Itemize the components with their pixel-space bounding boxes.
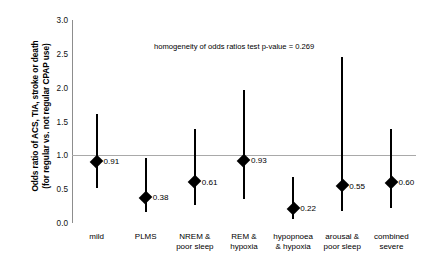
odds-ratio-value-label: 0.91 bbox=[104, 157, 120, 166]
data-point-group[interactable]: 0.61NREM &poor sleep bbox=[170, 20, 219, 223]
y-axis-title: Odds ratio of ACS, TIA, stroke or death … bbox=[0, 0, 34, 232]
y-tick-label: 0.5 bbox=[48, 185, 68, 194]
data-point-group[interactable]: 0.22hypopnoea& hypoxia bbox=[269, 20, 318, 223]
plot-area: 3.02.52.01.51.00.50.0 homogeneity of odd… bbox=[72, 20, 416, 223]
category-label-line1: PLMS bbox=[135, 232, 157, 242]
y-tick-label: 2.5 bbox=[48, 49, 68, 58]
y-axis-title-line1: Odds ratio of ACS, TIA, stroke or death bbox=[30, 40, 40, 191]
category-label-line1: arousal & bbox=[324, 232, 361, 242]
odds-ratio-value-label: 0.60 bbox=[398, 178, 414, 187]
odds-ratio-value-label: 0.38 bbox=[153, 193, 169, 202]
category-label-line2: & hypoxia bbox=[273, 242, 313, 252]
odds-ratio-marker bbox=[237, 153, 251, 167]
category-label: hypopnoea& hypoxia bbox=[273, 232, 313, 252]
confidence-interval-bar bbox=[243, 90, 245, 200]
odds-ratio-value-label: 0.93 bbox=[251, 156, 267, 165]
odds-ratio-value-label: 0.22 bbox=[300, 204, 316, 213]
category-label-line2: severe bbox=[374, 242, 409, 252]
category-label-line2: poor sleep bbox=[324, 242, 361, 252]
odds-ratio-value-label: 0.61 bbox=[202, 177, 218, 186]
category-label: PLMS bbox=[135, 232, 157, 242]
category-label-line1: REM & bbox=[230, 232, 258, 242]
category-label-line1: hypopnoea bbox=[273, 232, 313, 242]
data-point-group[interactable]: 0.55arousal &poor sleep bbox=[318, 20, 367, 223]
odds-ratio-value-label: 0.55 bbox=[349, 181, 365, 190]
y-tick-label: 1.0 bbox=[48, 151, 68, 160]
odds-ratio-marker bbox=[188, 175, 202, 189]
y-tick-label: 1.5 bbox=[48, 117, 68, 126]
category-label-line1: mild bbox=[89, 232, 104, 242]
category-label: REM &hypoxia bbox=[230, 232, 258, 252]
data-point-group[interactable]: 0.91mild bbox=[72, 20, 121, 223]
forest-plot-figure: Odds ratio of ACS, TIA, stroke or death … bbox=[0, 0, 421, 265]
odds-ratio-marker bbox=[335, 179, 349, 193]
confidence-interval-bar bbox=[96, 114, 98, 188]
category-label-line2: poor sleep bbox=[176, 242, 213, 252]
data-point-group[interactable]: 0.38PLMS bbox=[121, 20, 170, 223]
odds-ratio-marker bbox=[90, 155, 104, 169]
odds-ratio-marker bbox=[385, 176, 399, 190]
odds-ratio-marker bbox=[139, 190, 153, 204]
category-label: mild bbox=[89, 232, 104, 242]
category-label-line1: NREM & bbox=[176, 232, 213, 242]
category-label-line1: combined bbox=[374, 232, 409, 242]
data-point-group[interactable]: 0.93REM &hypoxia bbox=[219, 20, 268, 223]
category-label: combinedsevere bbox=[374, 232, 409, 252]
y-tick-label: 2.0 bbox=[48, 83, 68, 92]
confidence-interval-bar bbox=[194, 129, 196, 205]
data-point-group[interactable]: 0.60combinedsevere bbox=[367, 20, 416, 223]
category-label: arousal &poor sleep bbox=[324, 232, 361, 252]
confidence-interval-bar bbox=[390, 129, 392, 208]
category-label-line2: hypoxia bbox=[230, 242, 258, 252]
category-label: NREM &poor sleep bbox=[176, 232, 213, 252]
y-tick-label: 0.0 bbox=[48, 219, 68, 228]
odds-ratio-marker bbox=[286, 201, 300, 215]
y-axis-title-line2: (for regular vs. not regular CPAP use) bbox=[41, 43, 51, 188]
y-tick-label: 3.0 bbox=[48, 16, 68, 25]
